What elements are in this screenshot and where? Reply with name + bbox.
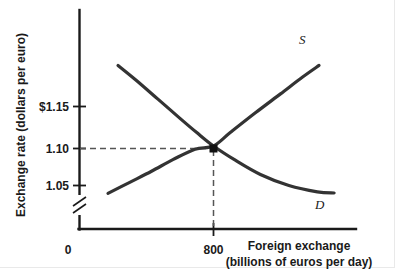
demand-curve xyxy=(118,65,334,193)
x-axis-title-sub: (billions of euros per day) xyxy=(226,255,373,269)
y-tick-label-115: $1.15 xyxy=(39,100,69,114)
supply-curve-label: S xyxy=(299,32,306,47)
supply-demand-chart: $1.15 1.10 1.05 0 800 Foreign exchange (… xyxy=(0,0,402,277)
axis-break-icon xyxy=(73,195,86,215)
chart-page: $1.15 1.10 1.05 0 800 Foreign exchange (… xyxy=(0,0,402,277)
demand-curve-label: D xyxy=(314,197,325,212)
y-tick-label-105: 1.05 xyxy=(46,179,70,193)
y-tick-label-110: 1.10 xyxy=(46,142,70,156)
x-axis-title: Foreign exchange xyxy=(248,239,351,253)
equilibrium-square-marker xyxy=(210,145,218,153)
x-tick-label-800: 800 xyxy=(203,243,223,257)
y-axis-title: Exchange rate (dollars per euro) xyxy=(14,33,28,217)
origin-label: 0 xyxy=(65,243,72,257)
